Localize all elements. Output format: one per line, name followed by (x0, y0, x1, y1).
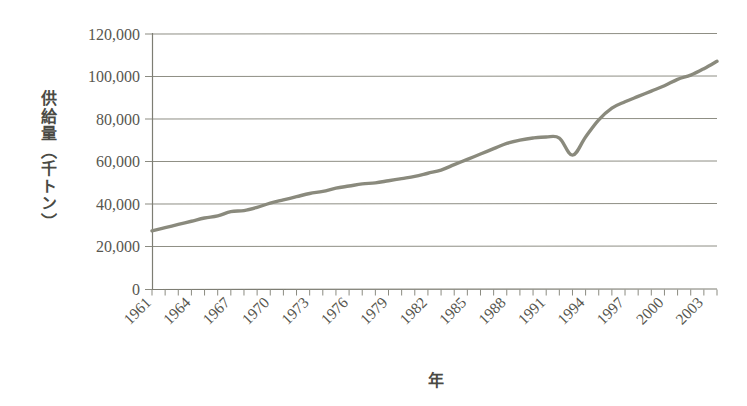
gridline-80000 (152, 119, 717, 120)
x-tick-label: 2003 (672, 293, 706, 327)
x-tick-label: 2000 (633, 293, 667, 327)
data-series-line (152, 61, 717, 231)
x-tick-marks (152, 290, 717, 296)
chart-figure: 供給量（千トン） 120,000 100,000 80,000 60,000 4… (0, 0, 747, 406)
gridline-40000 (152, 204, 717, 205)
y-tick-labels: 120,000 100,000 80,000 60,000 40,000 20,… (88, 26, 140, 298)
x-tick-label: 1976 (317, 293, 351, 327)
x-tick-label: 1964 (160, 293, 194, 327)
y-tick-label: 120,000 (88, 26, 140, 43)
x-tick-label: 1982 (396, 294, 430, 328)
x-tick-label: 1973 (278, 293, 312, 327)
y-axis-title: 供給量（千トン） (38, 89, 58, 230)
x-axis-title: 年 (428, 371, 444, 390)
gridline-120000 (152, 34, 717, 35)
line-chart: 供給量（千トン） 120,000 100,000 80,000 60,000 4… (0, 0, 747, 406)
gridlines (152, 34, 717, 247)
x-tick-labels: 1961196419671970197319761979198219851988… (120, 293, 706, 327)
x-tick-label: 1967 (199, 293, 233, 327)
y-tick-marks (145, 34, 152, 290)
y-tick-label: 40,000 (96, 196, 140, 213)
y-tick-label: 0 (132, 281, 140, 298)
y-axis-title-text: 供給量（千トン） (38, 89, 58, 230)
gridline-100000 (152, 76, 717, 77)
x-tick-label: 1997 (593, 293, 627, 327)
x-tick-label: 1988 (475, 293, 509, 327)
x-tick-label: 1985 (436, 293, 470, 327)
gridline-60000 (152, 161, 717, 162)
x-axis-line (152, 289, 717, 290)
x-tick-label: 1961 (120, 294, 154, 328)
x-tick-label: 1970 (238, 293, 272, 327)
y-tick-label: 20,000 (96, 238, 140, 255)
y-tick-label: 60,000 (96, 153, 140, 170)
x-tick-label: 1994 (554, 293, 588, 327)
x-tick-label: 1991 (514, 294, 548, 328)
gridline-20000 (152, 246, 717, 247)
x-tick-label: 1979 (357, 293, 391, 327)
y-tick-label: 80,000 (96, 111, 140, 128)
y-tick-label: 100,000 (88, 68, 140, 85)
